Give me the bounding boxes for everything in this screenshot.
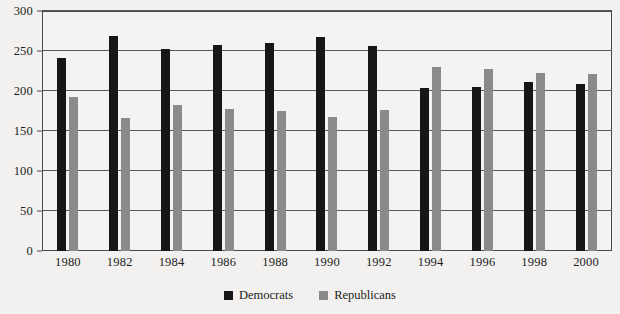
bar-democrats-1990 (316, 37, 325, 251)
bar-democrats-2000 (576, 84, 585, 251)
bar-republicans-1990 (328, 117, 337, 251)
bar-democrats-1980 (57, 58, 66, 251)
bar-group (197, 11, 249, 251)
bar-group (508, 11, 560, 251)
y-axis-tick-label: 200 (14, 84, 33, 99)
legend-label: Republicans (334, 288, 396, 303)
legend-swatch-icon (319, 291, 328, 300)
legend-item-republicans: Republicans (319, 288, 396, 303)
bar-democrats-1994 (420, 88, 429, 251)
bar-group (560, 11, 612, 251)
bar-republicans-1992 (380, 110, 389, 251)
x-axis-tick-label: 1982 (107, 255, 133, 270)
x-axis-tick-label: 1996 (470, 255, 496, 270)
bar-republicans-1996 (484, 69, 493, 251)
bar-democrats-1992 (368, 46, 377, 251)
x-axis-tick-label: 1998 (521, 255, 547, 270)
x-axis-tick-label: 1992 (366, 255, 392, 270)
x-axis: 1980198219841986198819901992199419961998… (42, 255, 612, 275)
bar-republicans-1986 (225, 109, 234, 251)
y-axis-tick-label: 100 (14, 164, 33, 179)
bar-democrats-1982 (109, 36, 118, 251)
legend-swatch-icon (224, 291, 233, 300)
y-axis-tick-label: 50 (20, 204, 33, 219)
bar-group (457, 11, 509, 251)
bar-group (249, 11, 301, 251)
y-axis-tick-label: 300 (14, 4, 33, 19)
bar-chart: 050100150200250300 198019821984198619881… (0, 0, 620, 314)
bar-group (353, 11, 405, 251)
bar-republicans-1984 (173, 105, 182, 251)
bar-republicans-1994 (432, 67, 441, 251)
bar-democrats-1998 (524, 82, 533, 251)
chart-legend: DemocratsRepublicans (0, 288, 620, 303)
bar-republicans-1980 (69, 97, 78, 251)
legend-label: Democrats (239, 288, 293, 303)
x-axis-tick-label: 1988 (262, 255, 288, 270)
y-axis-tick-label: 150 (14, 124, 33, 139)
y-axis-tick-label: 250 (14, 44, 33, 59)
x-axis-tick-label: 1980 (55, 255, 81, 270)
y-axis: 050100150200250300 (0, 11, 42, 251)
bar-republicans-1982 (121, 118, 130, 251)
x-axis-tick-label: 1984 (159, 255, 185, 270)
legend-item-democrats: Democrats (224, 288, 293, 303)
x-axis-tick-label: 1994 (418, 255, 444, 270)
bar-democrats-1986 (213, 45, 222, 251)
bar-democrats-1996 (472, 87, 481, 251)
x-axis-tick-label: 2000 (573, 255, 599, 270)
bar-group (405, 11, 457, 251)
bar-democrats-1984 (161, 49, 170, 251)
bar-democrats-1988 (265, 43, 274, 251)
bars-layer (42, 11, 612, 251)
y-axis-tick-label: 0 (27, 244, 33, 259)
bar-group (94, 11, 146, 251)
bar-republicans-2000 (588, 74, 597, 251)
x-axis-tick-label: 1990 (314, 255, 340, 270)
bar-group (301, 11, 353, 251)
bar-republicans-1998 (536, 73, 545, 251)
x-axis-tick-label: 1986 (210, 255, 236, 270)
bar-republicans-1988 (277, 111, 286, 251)
bar-group (42, 11, 94, 251)
plot-area (42, 11, 612, 251)
bar-group (146, 11, 198, 251)
